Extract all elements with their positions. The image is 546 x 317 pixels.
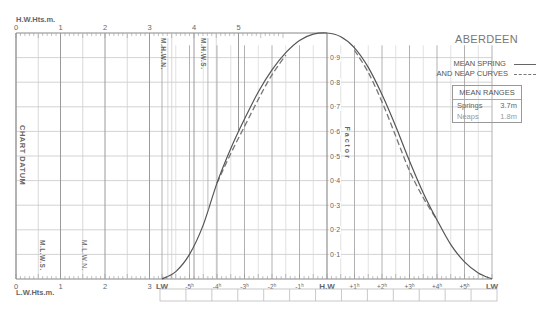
svg-text:M.H.W.S.: M.H.W.S. [200,38,207,69]
dashed-line-icon [514,74,536,75]
svg-text:M.L.W.N.: M.L.W.N. [81,240,88,271]
svg-text:H.W: H.W [319,282,335,291]
neaps-row: Neaps 1.8m [453,111,521,122]
svg-text:0·9: 0·9 [330,54,340,61]
legend-neap: AND NEAP CURVES [436,69,536,79]
svg-text:0·3: 0·3 [330,202,340,209]
svg-text:2: 2 [103,282,107,291]
svg-text:0·4: 0·4 [330,177,340,184]
svg-text:0·2: 0·2 [330,226,340,233]
svg-text:M.H.W.N.: M.H.W.N. [160,38,167,70]
svg-text:3: 3 [148,282,152,291]
port-name: ABERDEEN [455,33,518,45]
svg-text:4: 4 [192,23,196,32]
svg-text:1: 1 [59,23,63,32]
svg-text:0·8: 0·8 [330,79,340,86]
mean-ranges-title: MEAN RANGES [453,86,521,100]
legend-spring: MEAN SPRING [436,59,536,69]
svg-text:M.L.W.S.: M.L.W.S. [39,240,46,271]
svg-text:CHART DATUM: CHART DATUM [18,125,27,185]
chart-labels: 0·10·20·30·40·50·60·70·80·9Factor0123450… [14,23,498,301]
svg-text:5: 5 [237,23,241,32]
curve-legend: MEAN SPRING AND NEAP CURVES [436,59,536,79]
mean-ranges-box: MEAN RANGES Springs 3.7m Neaps 1.8m [452,85,522,123]
svg-text:LW: LW [486,282,498,291]
svg-text:0·5: 0·5 [330,153,340,160]
lw-heights-label: L.W.Hts.m. [16,288,54,297]
svg-text:0·6: 0·6 [330,128,340,135]
svg-text:2: 2 [103,23,107,32]
neap-curve-rising [217,55,286,183]
svg-text:0·7: 0·7 [330,103,340,110]
svg-text:1: 1 [59,282,63,291]
hw-heights-label: H.W.Hts.m. [16,15,55,24]
svg-text:3: 3 [148,23,152,32]
tidal-curve-chart: 0·10·20·30·40·50·60·70·80·9Factor0123450… [0,0,546,317]
svg-text:0·1: 0·1 [330,251,340,258]
svg-text:0: 0 [14,23,18,32]
springs-row: Springs 3.7m [453,100,521,111]
svg-text:LW: LW [156,282,168,291]
svg-text:Factor: Factor [344,126,351,159]
solid-line-icon [514,64,536,65]
